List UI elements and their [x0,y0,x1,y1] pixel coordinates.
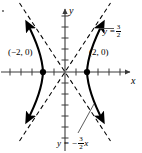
asymptote-neg-variable: x [84,138,88,148]
x-axis-label: x [131,76,135,86]
asymptote-neg-prefix: y = − [57,138,78,148]
y-axis-label: y [69,6,73,16]
asymptote-pos-denominator: 2 [116,31,122,39]
vertex-left-label: (−2, 0) [8,48,33,57]
hyperbola-figure: (−2, 0) (2, 0) x y y = 3 2 y = − 3 2 x [0,0,142,153]
leader-line-asymptote-neg [78,104,94,133]
vertex-right-point [84,69,90,75]
vertex-right-label: (2, 0) [89,48,109,57]
asymptote-pos-numerator: 3 [116,24,122,31]
asymptote-positive-label: y = 3 2 [103,24,122,39]
vertex-left-point [40,69,46,75]
asymptote-neg-denominator: 2 [78,143,84,151]
asymptote-neg-fraction: 3 2 [78,136,84,151]
asymptote-negative-label: y = − 3 2 x [57,136,88,151]
asymptote-pos-fraction: 3 2 [116,24,122,39]
speck-artifact [2,10,4,12]
asymptote-neg-numerator: 3 [78,136,84,143]
y-axis [62,9,69,151]
asymptote-pos-prefix: y = [103,26,115,36]
